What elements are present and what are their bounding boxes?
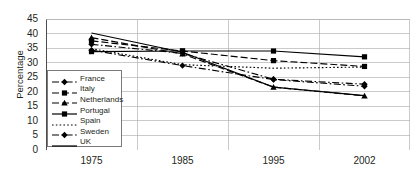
y-tick-label: 20	[16, 87, 38, 97]
y-tick-label: 10	[16, 116, 38, 126]
legend-item[interactable]: Spain	[48, 115, 121, 126]
chart-legend: FranceItalyNetherlandsPortugalSpainSwede…	[47, 70, 122, 147]
legend-item[interactable]: UK	[48, 137, 121, 148]
data-point-marker	[271, 48, 276, 53]
data-point-marker	[271, 58, 276, 63]
x-tick-label: 1995	[244, 155, 304, 166]
legend-swatch-uk-icon	[51, 137, 78, 147]
legend-swatch-italy-icon	[51, 84, 78, 94]
legend-label: Portugal	[78, 106, 110, 115]
legend-item[interactable]: Sweden	[48, 126, 121, 137]
legend-swatch-spain-icon	[51, 116, 78, 126]
chart-container: Percentage 051015202530354045 1975198519…	[0, 0, 420, 192]
y-axis-tick-labels: 051015202530354045	[14, 0, 38, 192]
legend-label: Italy	[78, 84, 95, 93]
data-point-marker	[88, 34, 94, 40]
legend-label: UK	[78, 137, 91, 146]
legend-swatch-france-icon	[51, 73, 78, 83]
x-tick-label: 1975	[62, 155, 122, 166]
y-tick-label: 30	[16, 58, 38, 68]
y-tick-label: 25	[16, 72, 38, 82]
data-point-marker	[362, 64, 367, 69]
legend-item[interactable]: Portugal	[48, 105, 121, 116]
data-point-marker	[180, 48, 185, 53]
y-tick-label: 5	[16, 130, 38, 140]
x-tick-label: 2002	[335, 155, 395, 166]
y-tick-label: 0	[16, 145, 38, 155]
y-tick-label: 45	[16, 14, 38, 24]
legend-swatch-sweden-icon	[51, 126, 78, 136]
data-point-marker	[362, 54, 367, 59]
legend-label: Sweden	[78, 127, 109, 136]
legend-label: Netherlands	[78, 95, 123, 104]
legend-item[interactable]: Netherlands	[48, 94, 121, 105]
legend-label: Spain	[78, 116, 100, 125]
data-point-marker	[179, 62, 185, 68]
legend-swatch-netherlands-icon	[51, 94, 78, 104]
legend-swatch-portugal-icon	[51, 105, 78, 115]
x-tick-label: 1985	[153, 155, 213, 166]
legend-item[interactable]: Italy	[48, 84, 121, 95]
y-tick-label: 35	[16, 43, 38, 53]
y-tick-label: 40	[16, 29, 38, 39]
y-tick-label: 15	[16, 101, 38, 111]
legend-item[interactable]: France	[48, 73, 121, 84]
legend-label: France	[78, 74, 105, 83]
